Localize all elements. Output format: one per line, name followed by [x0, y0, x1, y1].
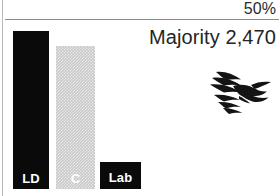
liberal-democrats-bird-of-liberty-logo — [203, 64, 273, 118]
axis-tick-label-50-percent: 50% — [244, 0, 276, 18]
bar-label-ld: LD — [13, 171, 49, 186]
bar-label-c: C — [56, 171, 95, 186]
axis-horizontal-rule-50pct — [5, 19, 279, 20]
bar-labour: Lab — [100, 162, 141, 189]
election-result-bar-chart: 50% Majority 2,470 LD — [0, 0, 279, 196]
axis-vertical-rule — [2, 0, 3, 196]
bar-label-lab: Lab — [100, 170, 141, 185]
bar-conservative: C — [56, 46, 95, 189]
majority-label: Majority 2,470 — [149, 25, 276, 49]
bar-liberal-democrat: LD — [13, 31, 49, 189]
